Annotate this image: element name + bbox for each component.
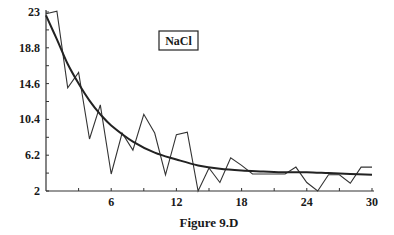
- y-tick-label: 6.2: [25, 148, 40, 162]
- y-tick-label: 18.8: [19, 41, 40, 55]
- legend-label-box: NaCl: [159, 31, 198, 50]
- x-tick-label: 30: [366, 195, 378, 209]
- x-tick-label: 18: [236, 195, 248, 209]
- fitted-curve-line: [46, 15, 372, 174]
- x-tick-label: 12: [170, 195, 182, 209]
- x-axis: 612182430: [46, 188, 378, 209]
- x-tick-label: 6: [108, 195, 114, 209]
- figure-caption: Figure 9.D: [180, 215, 239, 230]
- y-tick-label: 14.6: [19, 77, 40, 91]
- legend-label: NaCl: [165, 34, 192, 48]
- y-tick-label: 10.4: [19, 112, 40, 126]
- observed-series-line: [46, 11, 372, 191]
- y-tick-label: 23: [28, 5, 40, 19]
- line-chart: 26.210.414.618.823 612182430 NaCl Figure…: [0, 0, 394, 235]
- x-tick-label: 24: [301, 195, 313, 209]
- y-tick-label: 2: [34, 184, 40, 198]
- y-axis: 26.210.414.618.823: [19, 5, 49, 198]
